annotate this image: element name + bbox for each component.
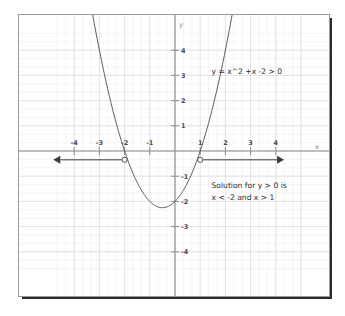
y-axis-label: y	[179, 21, 183, 29]
y-tick-label: 2	[181, 97, 186, 105]
arrow-head	[277, 156, 284, 164]
major-gridlines	[19, 15, 329, 296]
coordinate-plane: -4-3-2-11234 4321-1-2-3-4 x y y = x^2 +x…	[19, 15, 329, 296]
y-tick-label: -2	[181, 198, 188, 206]
solution-rays	[53, 156, 284, 164]
y-tick-label: 4	[181, 47, 186, 55]
x-tick-label: -4	[71, 139, 79, 147]
solution-annotation-line-2: x < -2 and x > 1	[212, 193, 275, 202]
plot-frame: -4-3-2-11234 4321-1-2-3-4 x y y = x^2 +x…	[18, 14, 330, 297]
arrow-head	[53, 156, 60, 164]
axes-lines	[19, 15, 329, 296]
x-tick-label: 4	[274, 139, 279, 147]
y-tick-label: 3	[181, 72, 186, 80]
x-axis-label: x	[315, 143, 319, 151]
y-tick-label: -1	[181, 173, 189, 181]
y-tick-label: 1	[181, 122, 186, 130]
open-circle-endpoint	[122, 157, 127, 162]
minor-gridlines	[19, 15, 329, 296]
x-tick-label: 3	[248, 139, 253, 147]
y-tick-label: -4	[181, 248, 189, 256]
graph-figure: -4-3-2-11234 4321-1-2-3-4 x y y = x^2 +x…	[0, 0, 345, 316]
parabola-curve	[86, 15, 239, 208]
right-ray	[198, 156, 284, 164]
solution-annotation-line-1: Solution for y > 0 is	[212, 181, 287, 190]
equation-annotation: y = x^2 +x -2 > 0	[212, 67, 283, 76]
open-circle-endpoint	[198, 157, 203, 162]
x-tick-label: -3	[96, 139, 103, 147]
y-tick-label: -3	[181, 223, 188, 231]
x-tick-label: 2	[223, 139, 228, 147]
x-tick-label: -1	[146, 139, 154, 147]
